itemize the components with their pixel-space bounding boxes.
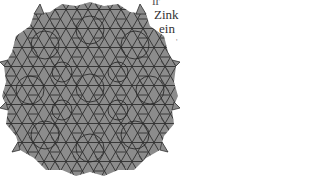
- text-line: Zink: [150, 8, 187, 22]
- text-line: ': [150, 36, 187, 50]
- body-text-column: ir Zink ein ': [150, 0, 187, 50]
- text-line: ein: [150, 22, 187, 36]
